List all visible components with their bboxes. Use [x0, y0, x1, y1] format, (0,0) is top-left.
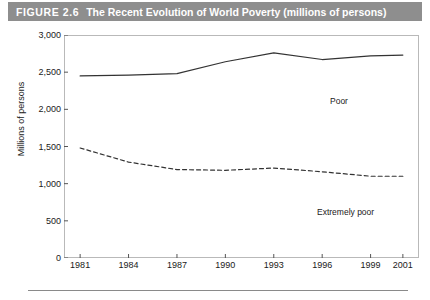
x-tick-label: 1996: [312, 260, 332, 270]
x-tick-label: 1990: [215, 260, 235, 270]
x-tick-label: 1981: [70, 260, 90, 270]
figure-header-bar: FIGURE 2.6 The Recent Evolution of World…: [8, 2, 422, 21]
series-label-extremely-poor: Extremely poor: [317, 207, 374, 217]
figure-title: The Recent Evolution of World Poverty (m…: [86, 6, 386, 18]
y-tick-label: 1,000: [15, 179, 61, 189]
y-tick-label: 0: [15, 253, 61, 263]
y-tick-label: 2,500: [15, 67, 61, 77]
x-tick-label: 1999: [361, 260, 381, 270]
series-label-poor: Poor: [330, 96, 348, 106]
plot-lines: [64, 35, 419, 258]
bottom-divider: [28, 290, 408, 291]
y-tick-label: 500: [15, 216, 61, 226]
y-tick-label: 3,000: [15, 30, 61, 40]
x-tick-label: 1984: [119, 260, 139, 270]
x-axis-tick-labels: 19811984198719901993199619992001: [64, 260, 420, 280]
figure-number: FIGURE 2.6: [16, 6, 79, 18]
x-tick-label: 1987: [167, 260, 187, 270]
y-tick-label: 1,500: [15, 142, 61, 152]
series-line-poor: [80, 53, 403, 76]
axis-tick-marks: [64, 35, 403, 258]
series-line-extremely-poor: [80, 148, 403, 176]
y-tick-label: 2,000: [15, 104, 61, 114]
x-tick-label: 1993: [264, 260, 284, 270]
x-tick-label: 2001: [393, 260, 413, 270]
chart-area: Millions of persons 05001,0001,5002,0002…: [0, 21, 430, 279]
y-axis-tick-labels: 05001,0001,5002,0002,5003,000: [15, 21, 61, 279]
